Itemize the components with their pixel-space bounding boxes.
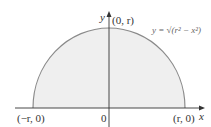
point-label-left: (−r, 0) xyxy=(17,113,45,124)
semicircle-diagram xyxy=(0,0,211,127)
point-label-right: (r, 0) xyxy=(173,113,195,124)
origin-label: 0 xyxy=(101,113,107,124)
y-axis-arrow-icon xyxy=(107,11,112,17)
y-axis-label: y xyxy=(100,12,105,23)
curve-equation-label: y = √(r² − x²) xyxy=(152,26,201,35)
x-axis-label: x xyxy=(199,111,204,122)
point-label-top: (0, r) xyxy=(112,15,134,26)
